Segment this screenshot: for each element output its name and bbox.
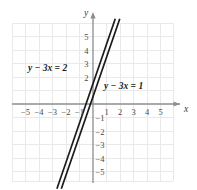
xtick--5: −5 (21, 107, 30, 117)
xtick-5: 5 (158, 107, 162, 117)
ytick--3: −3 (96, 140, 105, 150)
graph-figure: −5 −4 −3 −2 −1 1 2 3 4 5 5 4 3 2 −1 −2 −… (0, 0, 197, 190)
ytick-2: 2 (84, 73, 88, 83)
x-axis-label: x (183, 104, 189, 114)
xtick-1: 1 (104, 107, 108, 117)
xtick-4: 4 (145, 107, 150, 117)
equation-label-left: y − 3x = 2 (27, 63, 67, 73)
ytick--4: −4 (96, 154, 106, 164)
xtick-3: 3 (131, 107, 135, 117)
ytick--2: −2 (96, 127, 105, 137)
ytick-5: 5 (84, 32, 88, 42)
coordinate-plane-svg: −5 −4 −3 −2 −1 1 2 3 4 5 5 4 3 2 −1 −2 −… (0, 0, 197, 190)
xtick--1: −1 (75, 107, 84, 117)
xtick--3: −3 (48, 107, 57, 117)
xtick-2: 2 (118, 107, 122, 117)
ytick-3: 3 (84, 59, 88, 69)
ytick--5: −5 (96, 167, 105, 177)
xtick--4: −4 (34, 107, 44, 117)
y-axis-label: y (83, 8, 89, 18)
ytick--1: −1 (96, 113, 105, 123)
x-tick-labels: −5 −4 −3 −2 −1 1 2 3 4 5 (21, 107, 163, 117)
equation-label-right: y − 3x = 1 (103, 81, 143, 91)
x-axis-arrow (174, 101, 181, 106)
y-axis-arrow (90, 12, 95, 19)
xtick--2: −2 (61, 107, 70, 117)
